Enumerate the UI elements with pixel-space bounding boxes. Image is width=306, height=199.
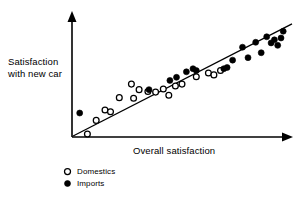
data-point-imports-2	[167, 77, 173, 83]
filled-circle-icon	[62, 178, 73, 189]
data-point-imports-3	[174, 74, 180, 80]
data-point-domestics-0	[85, 131, 91, 137]
data-point-domestics-16	[211, 72, 217, 78]
legend-label-imports: Imports	[77, 179, 104, 188]
data-point-domestics-1	[93, 117, 99, 123]
data-point-domestics-13	[179, 81, 185, 87]
y-axis-arrowhead	[68, 11, 77, 22]
data-point-imports-8	[224, 65, 230, 71]
data-point-imports-1	[146, 87, 152, 93]
regression-line	[73, 24, 292, 136]
data-point-imports-4	[183, 69, 189, 75]
trend-line-group	[73, 24, 292, 136]
scatter-plot-figure: Satisfaction with new car Overall satisf…	[0, 0, 306, 199]
data-point-domestics-6	[131, 95, 137, 101]
series-domestics	[85, 68, 224, 137]
data-point-domestics-10	[160, 86, 166, 92]
data-point-imports-6	[193, 68, 199, 74]
data-point-imports-14	[264, 34, 270, 40]
data-point-domestics-9	[153, 89, 159, 95]
data-point-imports-12	[253, 39, 259, 45]
x-axis-label: Overall satisfaction	[133, 145, 215, 157]
data-point-domestics-12	[173, 83, 179, 89]
plot-canvas	[0, 0, 306, 199]
legend-item-imports: Imports	[62, 178, 115, 189]
x-axis-arrowhead	[282, 133, 293, 142]
data-point-imports-10	[240, 44, 246, 50]
data-point-domestics-3	[108, 109, 114, 115]
data-point-imports-17	[275, 42, 281, 48]
data-point-domestics-7	[136, 87, 142, 93]
data-point-imports-18	[278, 35, 284, 41]
data-point-imports-19	[280, 28, 286, 34]
data-point-imports-13	[258, 50, 264, 56]
series-imports	[77, 28, 287, 116]
chart-legend: Domestics Imports	[62, 166, 115, 190]
legend-label-domestics: Domestics	[77, 167, 115, 176]
data-point-imports-16	[271, 37, 277, 43]
data-point-domestics-14	[193, 74, 199, 80]
data-point-imports-9	[230, 57, 236, 63]
y-axis-label: Satisfaction with new car	[8, 56, 72, 79]
data-point-domestics-11	[166, 92, 172, 98]
data-point-imports-0	[77, 110, 83, 116]
data-point-imports-11	[245, 55, 251, 61]
legend-item-domestics: Domestics	[62, 166, 115, 177]
open-circle-icon	[62, 166, 73, 177]
data-point-domestics-5	[129, 81, 135, 87]
data-point-domestics-4	[116, 95, 122, 101]
